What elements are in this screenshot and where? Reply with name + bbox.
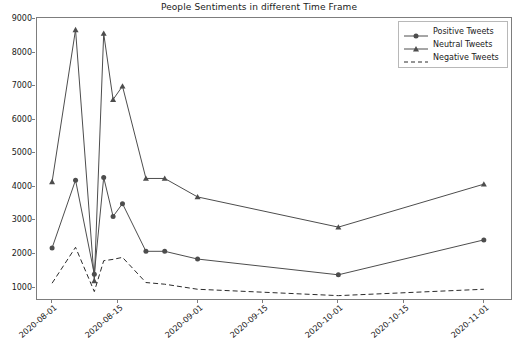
data-point-marker	[91, 278, 97, 283]
data-point-marker	[119, 83, 125, 88]
data-point-marker	[50, 245, 55, 250]
legend-item[interactable]: Neutral Tweets	[403, 38, 503, 51]
series-line-positive-tweets	[52, 177, 484, 274]
x-tick-label: 2020-11-01	[443, 303, 490, 345]
legend-item[interactable]: Negative Tweets	[403, 51, 503, 64]
legend-label: Positive Tweets	[433, 27, 494, 36]
data-point-marker	[73, 27, 79, 32]
data-point-marker	[143, 249, 148, 254]
data-point-marker	[195, 194, 201, 199]
series-line-negative-tweets	[52, 247, 484, 295]
data-point-marker	[162, 249, 167, 254]
x-tick-label: 2020-08-01	[12, 303, 59, 345]
data-point-marker	[195, 257, 200, 262]
legend-swatch-icon	[403, 39, 429, 50]
chart-figure: People Sentiments in different Time Fram…	[0, 0, 518, 353]
x-tick-label: 2020-09-01	[157, 303, 204, 345]
legend-item[interactable]: Positive Tweets	[403, 25, 503, 38]
legend-swatch-icon	[403, 52, 429, 63]
x-tick-label: 2020-10-01	[298, 303, 345, 345]
data-point-marker	[73, 178, 78, 183]
data-point-marker	[481, 181, 487, 186]
legend-swatch-icon	[403, 26, 429, 37]
x-tick-label: 2020-10-15	[364, 303, 411, 345]
data-point-marker	[481, 237, 486, 242]
data-point-marker	[101, 30, 107, 35]
data-point-marker	[111, 214, 116, 219]
data-point-marker	[101, 175, 106, 180]
data-point-marker	[120, 201, 125, 206]
x-tick-label: 2020-08-15	[77, 303, 124, 345]
chart-legend: Positive TweetsNeutral TweetsNegative Tw…	[398, 21, 508, 68]
x-tick-label: 2020-09-15	[223, 303, 270, 345]
data-point-marker	[49, 179, 55, 184]
legend-label: Neutral Tweets	[433, 40, 492, 49]
data-point-marker	[336, 272, 341, 277]
legend-label: Negative Tweets	[433, 53, 499, 62]
